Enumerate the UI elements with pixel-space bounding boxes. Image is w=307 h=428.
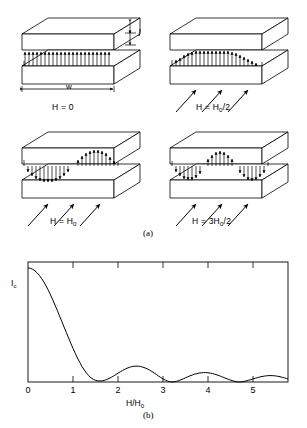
field-label-h-one: H = H0 (50, 216, 77, 227)
junction-diagram-h-three-half (170, 132, 288, 226)
plot-frame (28, 262, 288, 382)
plot-top-ticks (73, 262, 253, 268)
x-tick-4: 4 (201, 385, 215, 395)
caption-panel-b: (b) (143, 410, 154, 420)
x-tick-1: 1 (66, 385, 80, 395)
junction-diagram-h-zero (22, 18, 140, 92)
plot-curve-ic (28, 268, 288, 382)
x-axis-label: H/H0 (126, 398, 144, 409)
field-label-h-half: H = H0/2 (196, 102, 230, 113)
junction-diagram-h-one (22, 132, 140, 226)
field-label-h-zero: H = 0 (52, 102, 74, 112)
x-tick-2: 2 (111, 385, 125, 395)
field-label-h-three-half: H = 3H0/2 (192, 216, 231, 227)
x-tick-3: 3 (156, 385, 170, 395)
x-tick-0: 0 (21, 385, 35, 395)
caption-panel-a: (a) (143, 228, 153, 238)
thickness-dimension-label: l (138, 27, 141, 38)
x-tick-5: 5 (246, 385, 260, 395)
figure-josephson-junction: H = 0 H = H0/2 H = H0 H = 3H0/2 w l (a) … (0, 0, 307, 428)
y-axis-label: Ic (11, 278, 16, 289)
figure-canvas (0, 0, 307, 428)
plot-fraunhofer-pattern (28, 262, 288, 382)
junction-diagram-h-half (170, 18, 288, 112)
width-dimension-label: w (66, 82, 72, 91)
